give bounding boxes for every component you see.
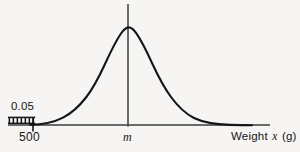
tail-area-hatch: [8, 117, 35, 123]
normal-distribution-figure: 0.05 500 m Weight x (g): [0, 0, 300, 152]
x-axis-label-units: (g): [282, 130, 297, 142]
x-axis-label-prefix: Weight: [231, 130, 268, 142]
mean-label: m: [123, 131, 132, 143]
tail-area-label: 0.05: [11, 101, 34, 113]
critical-value-label: 500: [19, 131, 40, 143]
x-axis-label: Weight x (g): [231, 131, 297, 143]
normal-density-curve: [30, 27, 252, 125]
x-axis-label-variable: x: [271, 130, 278, 142]
